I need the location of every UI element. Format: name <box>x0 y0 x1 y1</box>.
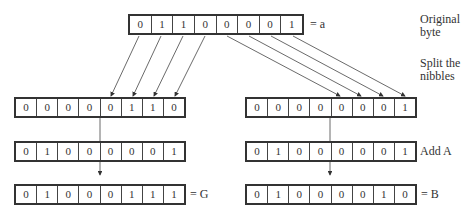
bit-cell: 0 <box>217 16 239 33</box>
bit-cell: 1 <box>164 143 184 160</box>
bit-cell: 1 <box>143 99 164 116</box>
bit-cell: 0 <box>164 99 184 116</box>
bit-cell: 0 <box>353 99 374 116</box>
bit-cell: 0 <box>79 99 100 116</box>
bit-cell: 0 <box>122 143 143 160</box>
bit-cell: 0 <box>238 16 260 33</box>
register-original-byte: 0 1 1 0 0 0 0 1 <box>128 14 304 35</box>
bit-cell: 0 <box>247 186 268 203</box>
bit-cell: 0 <box>101 99 122 116</box>
bit-cell: 0 <box>353 186 374 203</box>
bit-cell: 0 <box>310 186 331 203</box>
register-low-nibble: 0 0 0 0 0 0 0 1 <box>245 97 417 118</box>
bit-cell: 0 <box>353 143 374 160</box>
register-result-g: 0 1 0 0 0 1 1 1 <box>14 184 186 205</box>
bit-cell: 1 <box>37 186 58 203</box>
bit-cell: 1 <box>268 143 289 160</box>
label-equals-g: = G <box>190 187 208 202</box>
bit-cell: 0 <box>260 16 282 33</box>
side-label-original-byte: Original byte <box>420 13 460 39</box>
bit-cell: 0 <box>16 143 37 160</box>
bit-cell: 0 <box>268 99 289 116</box>
register-add-a-left: 0 1 0 0 0 0 0 1 <box>14 141 186 162</box>
bit-cell: 0 <box>289 186 310 203</box>
bit-cell: 0 <box>247 99 268 116</box>
bit-cell: 1 <box>143 186 164 203</box>
bit-cell: 1 <box>122 99 143 116</box>
bit-cell: 1 <box>152 16 174 33</box>
bit-cell: 1 <box>37 143 58 160</box>
bit-cell: 1 <box>268 186 289 203</box>
bit-cell: 0 <box>332 143 353 160</box>
bit-cell: 1 <box>395 99 415 116</box>
side-label-split-line2: nibbles <box>420 70 460 83</box>
bit-cell: 0 <box>289 99 310 116</box>
bit-cell: 0 <box>332 186 353 203</box>
bit-cell: 0 <box>58 99 79 116</box>
label-equals-a: = a <box>310 17 325 32</box>
bit-cell: 0 <box>130 16 152 33</box>
bit-cell: 0 <box>332 99 353 116</box>
side-label-add-a: Add A <box>420 144 452 159</box>
register-result-b: 0 1 0 0 0 0 1 0 <box>245 184 417 205</box>
side-label-split-nibbles: Split the nibbles <box>420 57 460 83</box>
bit-cell: 0 <box>395 186 415 203</box>
bit-cell: 0 <box>310 99 331 116</box>
register-high-nibble: 0 0 0 0 0 1 1 0 <box>14 97 186 118</box>
bit-cell: 1 <box>173 16 195 33</box>
bit-cell: 0 <box>374 143 395 160</box>
bit-cell: 0 <box>101 143 122 160</box>
bit-cell: 0 <box>16 186 37 203</box>
bit-cell: 0 <box>195 16 217 33</box>
label-equals-b: = B <box>421 187 439 202</box>
bit-cell: 0 <box>58 186 79 203</box>
bit-cell: 0 <box>143 143 164 160</box>
bit-cell: 0 <box>58 143 79 160</box>
bit-cell: 0 <box>37 99 58 116</box>
bit-cell: 0 <box>374 99 395 116</box>
bit-cell: 0 <box>247 143 268 160</box>
bit-cell: 1 <box>122 186 143 203</box>
bit-cell: 0 <box>16 99 37 116</box>
bit-cell: 0 <box>79 186 100 203</box>
bit-cell: 1 <box>164 186 184 203</box>
bit-cell: 1 <box>395 143 415 160</box>
bit-cell: 1 <box>281 16 302 33</box>
bit-cell: 0 <box>101 186 122 203</box>
register-add-a-right: 0 1 0 0 0 0 0 1 <box>245 141 417 162</box>
bit-cell: 0 <box>79 143 100 160</box>
bit-cell: 1 <box>374 186 395 203</box>
side-label-original-line2: byte <box>420 26 460 39</box>
bit-cell: 0 <box>310 143 331 160</box>
bit-cell: 0 <box>289 143 310 160</box>
